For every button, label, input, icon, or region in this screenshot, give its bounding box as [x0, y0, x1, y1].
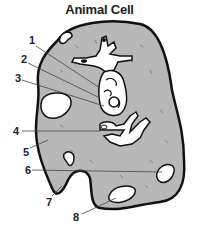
label-4: 4 — [13, 125, 19, 137]
label-2: 2 — [21, 53, 27, 65]
label-7: 7 — [46, 196, 52, 208]
nucleus-envelope — [99, 70, 127, 115]
label-8: 8 — [73, 211, 79, 223]
label-3: 3 — [15, 72, 21, 84]
label-1: 1 — [29, 34, 35, 46]
ribosome — [81, 59, 87, 63]
label-5: 5 — [23, 146, 29, 158]
ribosome — [102, 38, 106, 42]
nucleolus — [109, 97, 119, 107]
lysosome — [101, 125, 107, 129]
label-6: 6 — [25, 164, 31, 176]
